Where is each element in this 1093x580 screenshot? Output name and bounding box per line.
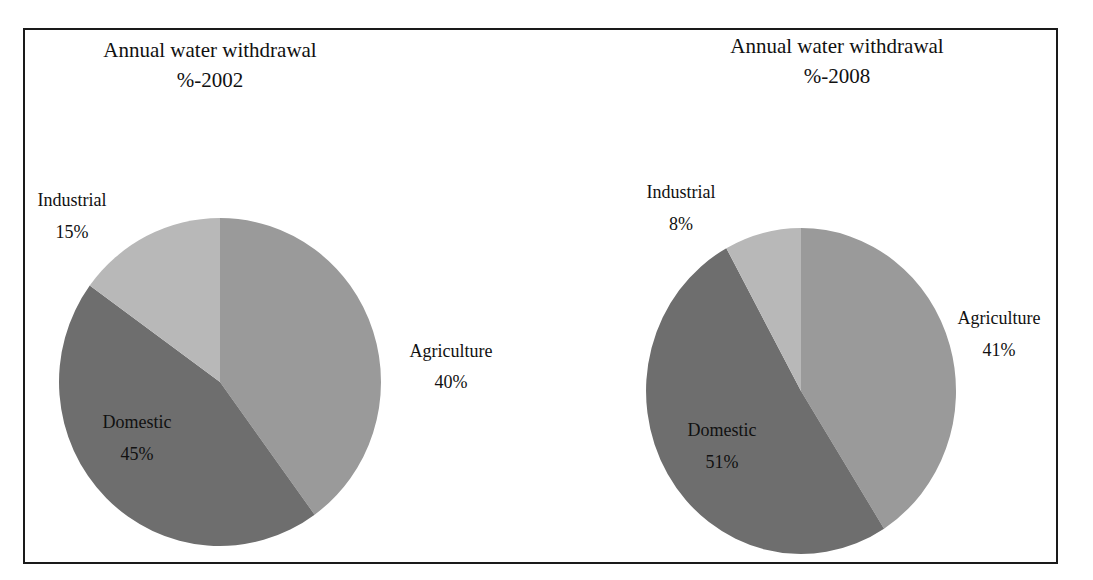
chart-title-2002-line2: %-2002 (177, 70, 244, 91)
value-industrial-2002: 15% (56, 223, 89, 241)
pie-2008 (646, 228, 956, 554)
value-industrial-2008: 8% (669, 215, 693, 233)
chart-title-2008-line2: %-2008 (804, 66, 871, 87)
label-industrial-2008: Industrial (647, 183, 716, 201)
value-agriculture-2002: 40% (435, 373, 468, 391)
value-agriculture-2008: 41% (983, 341, 1016, 359)
label-industrial-2002: Industrial (38, 191, 107, 209)
value-domestic-2008: 51% (706, 453, 739, 471)
label-domestic-2002: Domestic (103, 413, 172, 431)
label-agriculture-2002: Agriculture (410, 342, 493, 360)
label-domestic-2008: Domestic (688, 421, 757, 439)
chart-title-2008-line1: Annual water withdrawal (730, 36, 943, 57)
pie-2002 (59, 218, 381, 546)
chart-title-2002-line1: Annual water withdrawal (103, 40, 316, 61)
pie-charts (0, 0, 1093, 580)
value-domestic-2002: 45% (121, 445, 154, 463)
label-agriculture-2008: Agriculture (958, 309, 1041, 327)
